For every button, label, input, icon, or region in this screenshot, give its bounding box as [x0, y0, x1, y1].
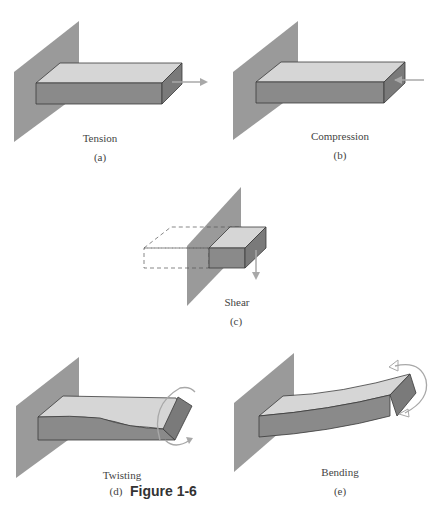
sublabel-e: (e) — [330, 485, 350, 497]
twist-arrow-lower — [165, 440, 190, 445]
panel-shear — [144, 187, 266, 306]
figure-label: Figure 1-6 — [130, 483, 197, 499]
shear-block-front — [209, 248, 245, 268]
caption-tension: Tension — [70, 132, 130, 144]
caption-shear: Shear — [212, 296, 262, 308]
beam-front-face — [256, 82, 384, 103]
shear-arrow-head — [252, 272, 260, 280]
panel-tension — [14, 21, 208, 142]
sublabel-a: (a) — [90, 151, 110, 163]
stress-types-diagram — [0, 0, 446, 508]
sublabel-c: (c) — [226, 315, 246, 327]
sublabel-b: (b) — [330, 149, 350, 161]
caption-compression: Compression — [300, 130, 380, 142]
tension-arrow-head — [200, 78, 208, 86]
panel-bending — [234, 353, 427, 472]
caption-bending: Bending — [310, 466, 370, 478]
beam-top-face — [36, 63, 182, 83]
caption-twisting: Twisting — [92, 469, 152, 481]
beam-top-face — [256, 62, 405, 82]
sublabel-d: (d) — [106, 485, 126, 497]
twist-arrow-head — [186, 437, 193, 444]
beam-front-face — [36, 83, 162, 104]
panel-compression — [233, 21, 424, 140]
panel-twisting — [16, 357, 195, 478]
